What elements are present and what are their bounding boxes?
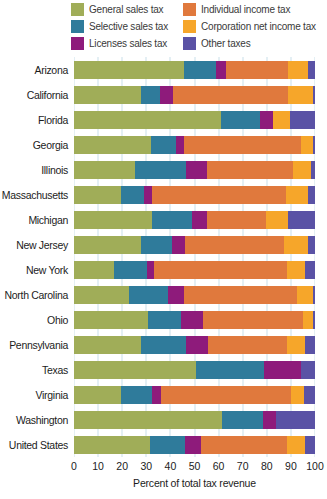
state-label: Massachusetts: [0, 189, 74, 201]
bar-track: [74, 411, 315, 429]
bar-segment: [74, 361, 196, 379]
bar-segment: [141, 86, 159, 104]
chart-row: Massachusetts: [0, 182, 327, 207]
axis-tick-label: 90: [285, 460, 297, 472]
bar-segment: [74, 111, 221, 129]
chart-row: Ohio: [0, 307, 327, 332]
axis-tick-label: 100: [306, 460, 324, 472]
state-label: Georgia: [0, 139, 74, 151]
bar-segment: [308, 61, 315, 79]
legend-item-label: Selective sales tax: [89, 21, 168, 32]
state-label: Michigan: [0, 214, 74, 226]
bar-segment: [192, 211, 206, 229]
chart-row: New York: [0, 257, 327, 282]
bar-track: [74, 86, 315, 104]
bar-segment: [260, 111, 273, 129]
axis-tick-label: 30: [140, 460, 152, 472]
bar-segment: [186, 161, 206, 179]
bar-segment: [184, 286, 297, 304]
bar-segment: [287, 436, 305, 454]
legend-swatch-icon: [183, 37, 196, 50]
bar-track: [74, 436, 315, 454]
bar-segment: [74, 61, 184, 79]
axis-tick-label: 0: [71, 460, 77, 472]
state-label: North Carolina: [0, 289, 74, 301]
bar-segment: [221, 111, 260, 129]
bar-segment: [144, 186, 152, 204]
axis-tick-label: 50: [189, 460, 201, 472]
bar-segment: [74, 186, 121, 204]
legend-item-label: Individual income tax: [201, 4, 290, 15]
bar-segment: [291, 386, 304, 404]
legend-item-5: Other taxes: [183, 37, 327, 50]
axis-tick-label: 70: [237, 460, 249, 472]
bar-segment: [222, 411, 263, 429]
bar-segment: [151, 136, 176, 154]
state-label: Washington: [0, 414, 74, 426]
bar-segment: [201, 436, 288, 454]
state-label: Florida: [0, 114, 74, 126]
bar-segment: [226, 61, 289, 79]
bar-track: [74, 286, 315, 304]
bar-track: [74, 211, 315, 229]
chart-row: Illinois: [0, 157, 327, 182]
bar-segment: [311, 161, 315, 179]
bar-segment: [173, 86, 289, 104]
bar-segment: [207, 211, 266, 229]
bar-segment: [161, 386, 291, 404]
axis-tick-label: 20: [116, 460, 128, 472]
bar-segment: [121, 386, 152, 404]
bar-segment: [152, 211, 192, 229]
bar-track: [74, 386, 315, 404]
bar-segment: [287, 261, 305, 279]
bar-segment: [154, 261, 288, 279]
bar-segment: [284, 236, 308, 254]
bar-segment: [152, 186, 286, 204]
bar-track: [74, 236, 315, 254]
state-label: Texas: [0, 364, 74, 376]
state-label: New Jersey: [0, 239, 74, 251]
bar-segment: [308, 236, 315, 254]
legend-item-3: Individual income tax: [183, 3, 327, 16]
bar-segment: [74, 336, 141, 354]
bar-segment: [74, 211, 152, 229]
state-label: United States: [0, 439, 74, 451]
tax-revenue-chart: General sales taxSelective sales taxLice…: [0, 0, 327, 499]
legend-item-label: General sales tax: [89, 4, 163, 15]
bar-segment: [290, 111, 315, 129]
state-label: New York: [0, 264, 74, 276]
bar-segment: [185, 436, 201, 454]
axis-tick-label: 80: [261, 460, 273, 472]
bar-segment: [74, 411, 222, 429]
bar-segment: [273, 111, 290, 129]
bar-segment: [308, 186, 315, 204]
bar-segment: [288, 211, 315, 229]
legend-swatch-icon: [71, 3, 84, 16]
state-label: California: [0, 89, 74, 101]
bar-segment: [288, 86, 312, 104]
bar-segment: [313, 86, 315, 104]
bar-segment: [276, 411, 315, 429]
bar-segment: [313, 311, 315, 329]
bar-segment: [74, 286, 129, 304]
bar-segment: [114, 261, 148, 279]
bar-track: [74, 361, 315, 379]
legend-swatch-icon: [71, 20, 84, 33]
legend-swatch-icon: [71, 37, 84, 50]
bar-segment: [216, 61, 226, 79]
state-label: Ohio: [0, 314, 74, 326]
bar-segment: [74, 261, 114, 279]
bar-segment: [301, 361, 315, 379]
bar-segment: [141, 236, 171, 254]
chart-row: Virginia: [0, 382, 327, 407]
bar-segment: [135, 161, 186, 179]
bar-track: [74, 336, 315, 354]
axis-tick-label: 10: [92, 460, 104, 472]
bar-segment: [129, 286, 168, 304]
bar-segment: [207, 161, 294, 179]
bar-segment: [74, 386, 121, 404]
legend-item-0: General sales tax: [71, 3, 181, 16]
bar-segment: [185, 236, 284, 254]
bar-segment: [303, 311, 313, 329]
bar-segment: [304, 386, 315, 404]
